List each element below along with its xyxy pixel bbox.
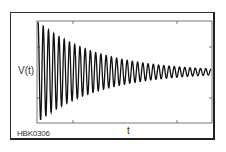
signal-line [38,22,211,120]
x-axis-label: t [127,125,130,136]
figure-code: HBK0306 [17,129,50,138]
y-axis-label: V(t) [18,65,34,76]
